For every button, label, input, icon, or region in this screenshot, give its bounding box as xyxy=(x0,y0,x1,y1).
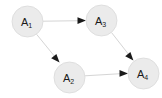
edge-a1-to-a2-line xyxy=(37,34,56,57)
node-a2-subscript: 2 xyxy=(70,78,74,85)
edge-a1-to-a3-arrowhead xyxy=(78,17,87,24)
edge-a1-to-a2[interactable] xyxy=(37,34,60,62)
edge-a1-to-a3[interactable] xyxy=(43,17,86,24)
graph-diagram: A1 A3 A2 A4 xyxy=(0,0,162,98)
node-a4[interactable]: A4 xyxy=(128,58,159,89)
edge-a2-to-a4-line xyxy=(85,74,122,76)
edge-a1-to-a2-arrowhead xyxy=(51,54,59,63)
node-a3-subscript: 3 xyxy=(102,21,106,28)
nodes-layer: A1 A3 A2 A4 xyxy=(12,5,159,93)
node-a4-subscript: 4 xyxy=(144,74,148,81)
edge-a3-to-a4-line xyxy=(112,33,130,56)
node-a1[interactable]: A1 xyxy=(12,6,43,37)
edge-a3-to-a4[interactable] xyxy=(112,33,134,61)
graph-canvas: A1 A3 A2 A4 xyxy=(0,0,162,98)
node-a2[interactable]: A2 xyxy=(54,62,85,93)
edges-layer xyxy=(37,17,134,77)
node-a3[interactable]: A3 xyxy=(86,5,117,36)
edge-a3-to-a4-arrowhead xyxy=(125,52,133,61)
edge-a1-to-a3-line xyxy=(43,21,80,22)
edge-a2-to-a4[interactable] xyxy=(85,70,128,77)
node-a1-subscript: 1 xyxy=(28,22,32,29)
edge-a2-to-a4-arrowhead xyxy=(120,70,129,77)
